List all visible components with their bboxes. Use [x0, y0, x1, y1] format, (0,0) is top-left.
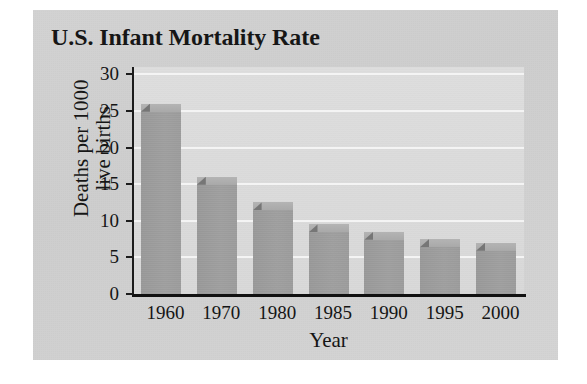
y-axis-tick-labels: 051015202530 — [33, 10, 119, 360]
bar-front-face — [309, 232, 349, 294]
y-axis-tick-label: 30 — [31, 63, 119, 85]
x-axis-tick-label: 2000 — [482, 302, 520, 324]
bar-front-face — [141, 112, 181, 294]
x-axis-tick-label: 1990 — [370, 302, 408, 324]
plot-area — [133, 67, 524, 294]
x-axis-tick-label: 1970 — [202, 302, 240, 324]
bar-front-face — [476, 251, 516, 294]
x-axis-tick-labels: 1960197019801985199019952000 — [133, 302, 524, 328]
y-axis-tick-mark — [126, 73, 133, 75]
y-axis-tick-label: 25 — [31, 100, 119, 122]
y-axis-tick-mark — [126, 256, 133, 258]
x-axis-tick-label: 1985 — [314, 302, 352, 324]
bar-front-face — [420, 247, 460, 294]
bar — [253, 202, 293, 294]
bar — [309, 224, 349, 294]
bar — [197, 177, 237, 294]
bar — [364, 232, 404, 294]
y-axis-tick-label: 10 — [31, 210, 119, 232]
bar — [476, 243, 516, 294]
y-axis-tick-mark — [126, 220, 133, 222]
y-axis-tick-mark — [126, 147, 133, 149]
bar — [420, 239, 460, 294]
y-axis-line — [132, 67, 134, 296]
x-axis-tick-label: 1960 — [146, 302, 184, 324]
bar — [141, 104, 181, 294]
chart-card: U.S. Infant Mortality Rate Deaths per 10… — [33, 10, 558, 360]
y-axis-tick-mark — [126, 183, 133, 185]
bar-front-face — [364, 240, 404, 294]
y-axis-tick-label: 15 — [31, 173, 119, 195]
y-axis-tick-mark — [126, 110, 133, 112]
bar-front-face — [253, 210, 293, 294]
bar-front-face — [197, 185, 237, 294]
x-axis-line — [132, 294, 526, 297]
bar-series — [133, 67, 524, 294]
y-axis-tick-label: 20 — [31, 137, 119, 159]
x-axis-tick-label: 1980 — [258, 302, 296, 324]
x-axis-title: Year — [133, 328, 524, 353]
y-axis-tick-label: 0 — [31, 283, 119, 305]
y-axis-tick-label: 5 — [31, 246, 119, 268]
x-axis-tick-label: 1995 — [426, 302, 464, 324]
y-axis-tick-mark — [126, 293, 133, 295]
